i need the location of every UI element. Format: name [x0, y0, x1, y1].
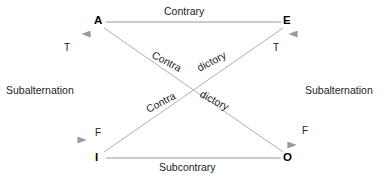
vertex-e: E [283, 15, 291, 27]
label-subalternation-left: Subalternation [6, 85, 74, 96]
vertex-a: A [94, 15, 102, 27]
vertex-i: I [95, 152, 98, 164]
label-contrary: Contrary [164, 6, 204, 17]
truth-label-right-top: T [273, 43, 279, 53]
truth-label-right-bottom: F [302, 126, 308, 136]
vertex-o: O [283, 152, 292, 164]
square-of-opposition-diagram: A E I O Contrary Subcontrary Subalternat… [0, 0, 390, 180]
label-subalternation-right: Subalternation [305, 85, 373, 96]
truth-label-left-top: T [64, 43, 70, 53]
truth-label-left-bottom: F [95, 128, 101, 138]
label-subcontrary: Subcontrary [159, 162, 216, 173]
